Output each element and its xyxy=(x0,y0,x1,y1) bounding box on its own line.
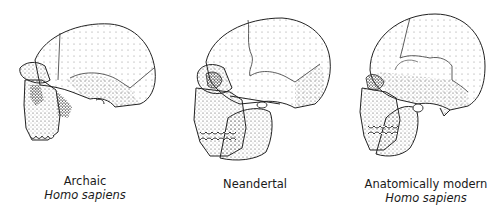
archaic-skull-illustration xyxy=(0,0,170,160)
neandertal-label: Neandertal xyxy=(205,177,305,191)
neandertal-skull-illustration xyxy=(170,0,340,165)
neandertal-name: Neandertal xyxy=(205,177,305,191)
modern-label: Anatomically modern Homo sapiens xyxy=(358,177,494,205)
modern-species: Homo sapiens xyxy=(358,191,494,205)
modern-name: Anatomically modern xyxy=(358,177,494,191)
archaic-name: Archaic xyxy=(30,174,140,188)
modern-skull-illustration xyxy=(340,0,502,170)
archaic-species: Homo sapiens xyxy=(30,188,140,202)
archaic-label: Archaic Homo sapiens xyxy=(30,174,140,202)
